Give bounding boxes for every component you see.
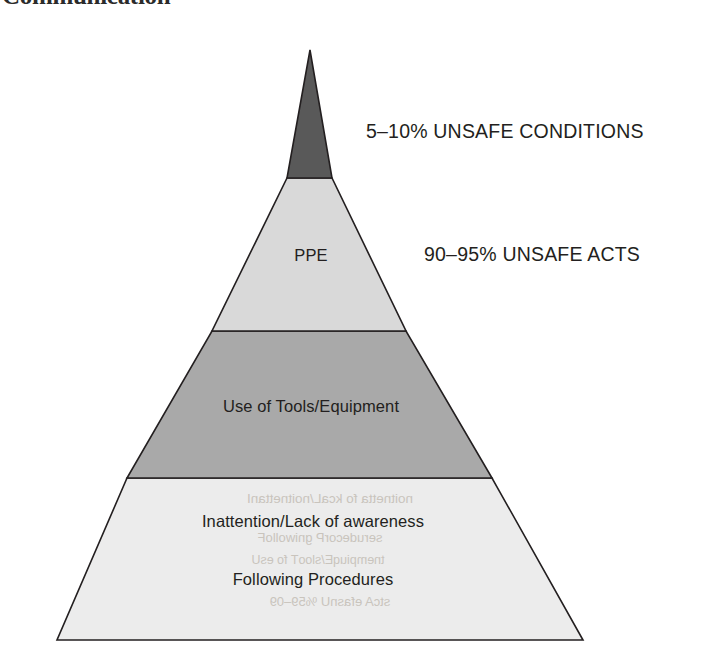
callout-unsafe-conditions: 5–10% UNSAFE CONDITIONS [366,120,644,143]
callout-unsafe-acts: 90–95% UNSAFE ACTS [424,243,640,266]
pyramid-tier-1-apex [287,50,332,178]
pyramid-tier-4-label-line-1: Inattention/Lack of awareness [202,512,424,531]
page-root: Communication noitnetta fo kcaL/noitnett… [0,0,703,670]
pyramid-tier-4-label-line-2: Following Procedures [233,570,394,589]
safety-pyramid-diagram: noitnetta fo kcaL/noitnettanI serudecorP… [0,0,703,670]
pyramid-tier-4-base [57,478,583,640]
pyramid-tier-3-label: Use of Tools/Equipment [223,397,399,416]
pyramid-tier-2-label: PPE [294,246,327,265]
